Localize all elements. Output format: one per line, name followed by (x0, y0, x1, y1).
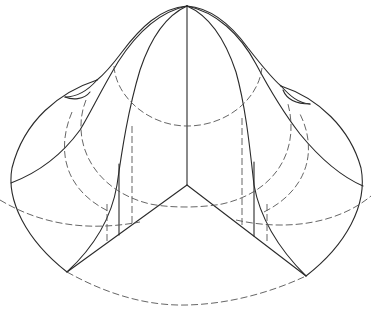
cut-edge-left (67, 185, 187, 272)
hidden-ring-middle (81, 100, 291, 207)
meridian-left-back (11, 6, 187, 183)
dome-silhouette-left (97, 6, 187, 80)
hidden-base-arc (67, 272, 306, 305)
bell-surface-figure (0, 0, 371, 310)
hidden-ring-lower-right (236, 196, 371, 225)
outline-left-lobe (11, 80, 97, 272)
meridian-right-back (187, 6, 363, 186)
cusp-left-upper (65, 80, 97, 97)
hidden-ring-upper (114, 66, 262, 126)
outline-right-lobe (281, 86, 362, 276)
cut-edge-right (187, 185, 306, 276)
bell-surface-drawing (0, 0, 371, 310)
dome-silhouette-right (187, 6, 281, 86)
